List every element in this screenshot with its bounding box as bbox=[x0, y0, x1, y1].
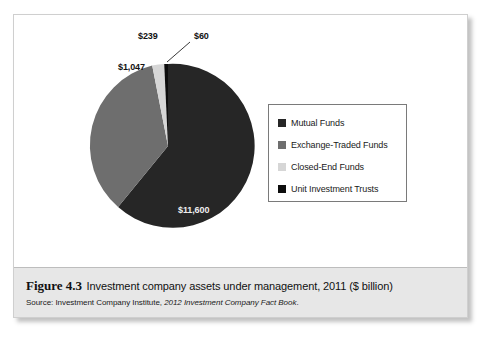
figure-caption-text: Investment company assets under manageme… bbox=[87, 280, 393, 292]
legend-item-mutual-funds: Mutual Funds bbox=[278, 112, 406, 133]
figure-number: Figure 4.3 bbox=[26, 278, 82, 293]
figure-source-line: Source: Investment Company Institute, 20… bbox=[26, 298, 299, 307]
slice-label-unit-investment-trusts: $60 bbox=[194, 31, 209, 41]
source-prefix-text: Source: Investment Company Institute, bbox=[26, 298, 164, 307]
legend-swatch-icon-closed-end-funds bbox=[278, 163, 286, 171]
chart-plot-area: $239 $60 $1,047 $11,600 Mutual Funds Exc… bbox=[14, 15, 467, 267]
legend-swatch-icon-unit-investment-trusts bbox=[278, 185, 286, 193]
legend-item-exchange-traded-funds: Exchange-Traded Funds bbox=[278, 134, 406, 155]
legend-swatch-icon-mutual-funds bbox=[278, 119, 286, 127]
legend-label-closed-end-funds: Closed-End Funds bbox=[291, 162, 364, 172]
legend-item-closed-end-funds: Closed-End Funds bbox=[278, 156, 406, 177]
legend-swatch-icon-exchange-traded-funds bbox=[278, 141, 286, 149]
pie-chart bbox=[60, 35, 290, 250]
slice-label-exchange-traded-funds: $1,047 bbox=[118, 62, 145, 72]
leader-line-uit bbox=[167, 42, 190, 62]
legend-label-unit-investment-trusts: Unit Investment Trusts bbox=[291, 184, 378, 194]
figure-caption-band: Figure 4.3 Investment company assets und… bbox=[14, 267, 467, 317]
figure-caption: Figure 4.3 Investment company assets und… bbox=[26, 276, 393, 294]
chart-legend: Mutual Funds Exchange-Traded Funds Close… bbox=[268, 104, 407, 202]
source-book-title: 2012 Investment Company Fact Book bbox=[164, 298, 296, 307]
slice-label-closed-end-funds: $239 bbox=[138, 31, 158, 41]
source-suffix-text: . bbox=[296, 298, 298, 307]
slice-label-mutual-funds: $11,600 bbox=[178, 205, 209, 215]
legend-item-unit-investment-trusts: Unit Investment Trusts bbox=[278, 178, 406, 199]
legend-label-exchange-traded-funds: Exchange-Traded Funds bbox=[291, 140, 388, 150]
legend-label-mutual-funds: Mutual Funds bbox=[291, 118, 344, 128]
figure-card: $239 $60 $1,047 $11,600 Mutual Funds Exc… bbox=[13, 14, 468, 318]
